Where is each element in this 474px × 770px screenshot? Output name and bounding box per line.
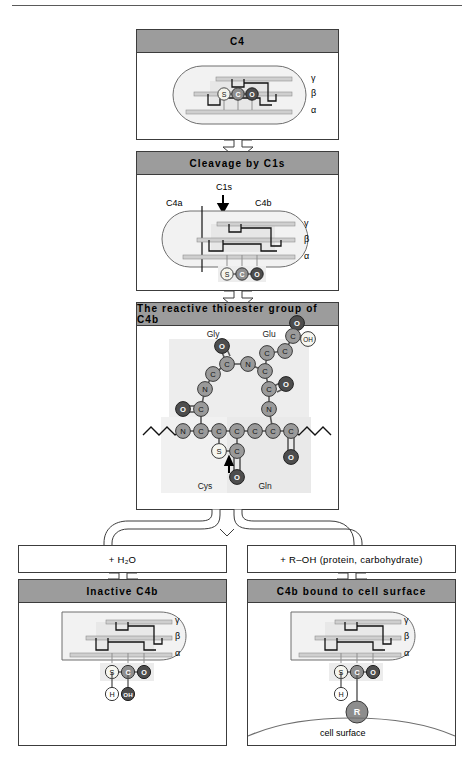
svg-text:H: H — [109, 690, 114, 699]
panel-cleavage-title: Cleavage by C1s — [190, 158, 286, 169]
svg-text:C: C — [216, 427, 222, 436]
panel-c4b-bound-title: C4b bound to cell surface — [277, 586, 427, 597]
svg-text:Gln: Gln — [258, 481, 272, 491]
svg-text:H: H — [338, 690, 343, 699]
svg-text:C: C — [354, 668, 359, 677]
svg-text:O: O — [234, 473, 240, 482]
svg-text:C: C — [270, 427, 276, 436]
svg-text:C: C — [264, 349, 270, 358]
svg-text:O: O — [370, 668, 376, 677]
svg-text:Glu: Glu — [262, 329, 276, 339]
svg-text:C: C — [235, 91, 240, 98]
bound-chain-label-gamma: γ — [404, 615, 409, 625]
c4-chain-label-alpha: α — [311, 105, 316, 115]
panel-c4b-bound: C4b bound to cell surface — [247, 579, 456, 746]
svg-text:O: O — [283, 380, 289, 389]
svg-text:O: O — [249, 91, 255, 98]
panel-c4b-bound-body: S C O H R γ β α cell surface — [248, 602, 455, 745]
panel-thioester: The reactive thioester group of C4b — [136, 302, 339, 510]
svg-text:C: C — [210, 370, 216, 379]
reagent-label-roh: + R–OH (protein, carbohydrate) — [280, 554, 422, 565]
svg-text:C: C — [234, 427, 240, 436]
bound-chain-label-beta: β — [404, 631, 409, 641]
panel-c4-body: S C O γ β α — [137, 52, 338, 139]
svg-text:O: O — [180, 405, 186, 414]
svg-text:C: C — [198, 405, 204, 414]
panel-cleavage: Cleavage by C1s C1s C4a C4b — [136, 151, 339, 291]
panel-inactive-c4b: Inactive C4b — [18, 579, 227, 746]
svg-text:C: C — [290, 332, 296, 341]
svg-text:C: C — [252, 427, 258, 436]
svg-text:C: C — [239, 271, 244, 278]
svg-text:C: C — [198, 427, 204, 436]
panel-c4-header: C4 — [137, 30, 338, 53]
panel-thioester-body: O C OH C C C O C N N C O C N C — [137, 325, 338, 509]
cleavage-enzyme-label: C1s — [216, 182, 232, 192]
cleavage-fragment-c4b: C4b — [255, 198, 272, 208]
svg-text:C: C — [282, 347, 288, 356]
panel-c4b-bound-header: C4b bound to cell surface — [248, 580, 455, 603]
panel-thioester-header: The reactive thioester group of C4b — [137, 303, 338, 326]
svg-text:S: S — [216, 447, 221, 456]
svg-text:S: S — [110, 668, 115, 677]
thioester-molecule-diagram: O C OH C C C O C N N C O C N C — [141, 331, 337, 503]
svg-text:O: O — [294, 319, 300, 328]
svg-text:OH: OH — [123, 691, 133, 698]
cleavage-fragment-c4a: C4a — [166, 198, 183, 208]
cleavage-chain-label-beta: β — [304, 234, 309, 244]
svg-text:O: O — [288, 453, 294, 462]
inactive-chain-label-alpha: α — [175, 648, 180, 658]
panel-inactive-c4b-title: Inactive C4b — [86, 586, 158, 597]
bound-chain-label-alpha: α — [404, 648, 409, 658]
panel-inactive-c4b-header: Inactive C4b — [19, 580, 226, 603]
cleavage-chain-label-alpha: α — [304, 251, 309, 261]
svg-text:N: N — [245, 360, 250, 369]
top-rule — [12, 5, 462, 6]
inactive-c4b-capsule: S C O H OH — [56, 610, 196, 720]
svg-text:N: N — [180, 427, 185, 436]
svg-text:C: C — [262, 367, 268, 376]
svg-text:Gly: Gly — [207, 329, 221, 339]
panel-inactive-c4b-body: S C O H OH γ β α — [19, 602, 226, 745]
panel-thioester-title: The reactive thioester group of C4b — [137, 303, 338, 325]
panel-cleavage-header: Cleavage by C1s — [137, 152, 338, 175]
cleavage-protein-capsule: S C O — [161, 210, 317, 288]
svg-text:C: C — [234, 447, 240, 456]
svg-text:O: O — [219, 342, 225, 351]
svg-text:O: O — [254, 271, 260, 278]
svg-text:C: C — [288, 427, 294, 436]
svg-text:C: C — [224, 360, 230, 369]
svg-text:C: C — [125, 668, 130, 677]
svg-text:Cys: Cys — [198, 481, 213, 491]
reagent-label-water: + H₂O — [109, 554, 137, 565]
cell-surface-label: cell surface — [320, 728, 366, 738]
inactive-chain-label-gamma: γ — [175, 615, 180, 625]
reagent-box-water: + H₂O — [18, 545, 227, 573]
svg-text:N: N — [266, 405, 271, 414]
svg-text:N: N — [202, 385, 207, 394]
svg-text:O: O — [141, 668, 147, 677]
c4-protein-capsule: S C O — [172, 61, 307, 131]
figure-canvas: C4 — [0, 0, 474, 770]
svg-text:OH: OH — [303, 336, 313, 343]
reagent-box-roh: + R–OH (protein, carbohydrate) — [247, 545, 456, 573]
inactive-chain-label-beta: β — [175, 631, 180, 641]
svg-text:C: C — [266, 385, 272, 394]
panel-cleavage-body: C1s C4a C4b — [137, 174, 338, 290]
panel-c4: C4 — [136, 29, 339, 140]
svg-text:S: S — [339, 668, 344, 677]
cleavage-chain-label-gamma: γ — [304, 218, 309, 228]
c4-chain-label-gamma: γ — [311, 73, 316, 83]
svg-text:S: S — [222, 91, 227, 98]
svg-text:S: S — [225, 271, 230, 278]
panel-c4-title: C4 — [230, 36, 245, 47]
c4-chain-label-beta: β — [311, 88, 316, 98]
